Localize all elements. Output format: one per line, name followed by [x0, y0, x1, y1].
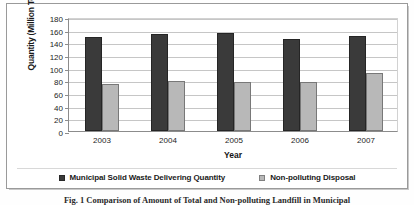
bar — [234, 82, 251, 131]
bar-group — [349, 19, 383, 131]
legend-label: Non-polluting Disposal — [270, 173, 355, 182]
x-axis-tick-label: 2006 — [291, 136, 309, 145]
bar-group — [85, 19, 119, 131]
x-axis-tick-label: 2003 — [93, 136, 111, 145]
y-axis-tick-label: 20 — [54, 116, 63, 125]
bar — [300, 82, 317, 131]
legend-label: Municipal Solid Waste Delivering Quantit… — [70, 173, 226, 182]
plot-area: 020406080100120140160180 200320042005200… — [68, 18, 398, 132]
bar-group — [283, 19, 317, 131]
bar — [168, 81, 185, 131]
legend-item-1[interactable]: Non-polluting Disposal — [259, 173, 355, 182]
y-axis-tick-label: 0 — [59, 129, 63, 138]
chart-frame: Quantity (Million Tons) 0204060801001201… — [6, 3, 408, 189]
bars-layer — [69, 19, 397, 131]
legend-item-0[interactable]: Municipal Solid Waste Delivering Quantit… — [59, 173, 226, 182]
bar — [151, 34, 168, 131]
bar-group — [217, 19, 251, 131]
y-axis-tick-label: 180 — [50, 15, 63, 24]
y-axis-tick-label: 100 — [50, 65, 63, 74]
bar — [217, 33, 234, 131]
figure-caption: Fig. 1 Comparison of Amount of Total and… — [0, 195, 414, 205]
legend-swatch-icon — [259, 175, 265, 181]
y-axis-tick-label: 80 — [54, 78, 63, 87]
bar — [85, 37, 102, 131]
y-axis-tick-label: 40 — [54, 103, 63, 112]
y-axis-tick — [65, 133, 69, 134]
y-axis-tick-label: 140 — [50, 40, 63, 49]
bar — [102, 84, 119, 132]
bar — [366, 73, 383, 131]
y-axis-title: Quantity (Million Tons) — [26, 0, 36, 79]
y-axis-tick-label: 60 — [54, 91, 63, 100]
y-axis-tick-label: 160 — [50, 27, 63, 36]
legend-swatch-icon — [59, 175, 65, 181]
figure-container: Quantity (Million Tons) 0204060801001201… — [0, 0, 414, 205]
chart-legend: Municipal Solid Waste Delivering Quantit… — [17, 168, 397, 186]
x-axis-tick-label: 2005 — [225, 136, 243, 145]
bar — [349, 36, 366, 131]
bar-group — [151, 19, 185, 131]
x-axis-tick-label: 2004 — [159, 136, 177, 145]
x-axis-tick-label: 2007 — [357, 136, 375, 145]
y-axis-tick-label: 120 — [50, 53, 63, 62]
bar — [283, 39, 300, 131]
x-axis-title: Year — [68, 150, 398, 160]
